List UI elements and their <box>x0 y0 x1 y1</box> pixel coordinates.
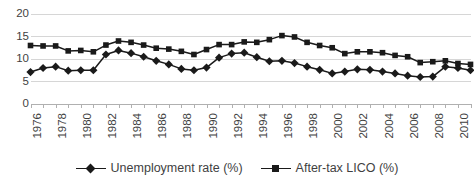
data-point-marker <box>191 52 197 58</box>
data-point-marker <box>152 57 160 65</box>
data-point-marker <box>455 61 461 67</box>
data-point-marker <box>52 63 60 71</box>
data-point-marker <box>304 40 310 46</box>
data-point-marker <box>228 49 236 57</box>
data-point-marker <box>253 53 261 61</box>
data-point-marker <box>240 49 248 57</box>
data-point-marker <box>279 33 285 39</box>
line-chart: 05101520 1976197819801982198419861988199… <box>0 0 474 182</box>
data-point-marker <box>367 49 373 55</box>
data-point-marker <box>229 42 235 48</box>
data-point-marker <box>380 50 386 56</box>
data-point-marker <box>91 49 97 55</box>
data-point-marker <box>216 42 222 48</box>
data-point-marker <box>254 40 260 46</box>
data-point-marker <box>404 72 412 80</box>
plot-area <box>0 0 474 110</box>
x-axis-tick-label: 2002 <box>357 113 369 159</box>
legend-diamond-marker-icon <box>76 162 106 174</box>
data-point-marker <box>141 42 147 48</box>
data-point-marker <box>355 49 361 55</box>
data-point-marker <box>392 53 398 59</box>
data-point-marker <box>165 60 173 68</box>
x-axis-tick-label: 1988 <box>181 113 193 159</box>
data-point-marker <box>366 66 374 74</box>
data-point-marker <box>114 46 122 54</box>
data-point-marker <box>466 66 474 74</box>
data-point-marker <box>341 67 349 75</box>
data-point-marker <box>468 62 474 68</box>
data-point-marker <box>166 46 172 52</box>
y-axis-tick-label: 5 <box>3 76 29 87</box>
x-axis-tick-label: 1994 <box>257 113 269 159</box>
series-lico <box>28 33 474 67</box>
data-point-marker <box>78 48 84 54</box>
x-axis-tick-label: 2010 <box>458 113 470 159</box>
data-point-marker <box>292 34 298 40</box>
data-point-marker <box>53 43 59 49</box>
data-point-marker <box>378 67 386 75</box>
series-line <box>31 50 471 77</box>
y-axis-tick-label: 15 <box>3 31 29 42</box>
x-axis-tick-label: 1996 <box>282 113 294 159</box>
data-point-marker <box>103 42 109 48</box>
x-axis-tick-label: 1990 <box>207 113 219 159</box>
data-point-marker <box>342 51 348 57</box>
legend-square-marker-icon <box>261 162 291 174</box>
data-point-marker <box>65 48 71 54</box>
data-point-marker <box>430 59 436 65</box>
data-point-marker <box>391 69 399 77</box>
legend-label: Unemployment rate (%) <box>111 161 243 175</box>
data-point-marker <box>290 59 298 67</box>
x-axis-tick-label: 2004 <box>383 113 395 159</box>
chart-legend: Unemployment rate (%)After-tax LICO (%) <box>0 157 474 179</box>
data-point-marker <box>153 45 159 51</box>
legend-item[interactable]: After-tax LICO (%) <box>261 161 399 175</box>
x-axis-tick-label: 1978 <box>56 113 68 159</box>
data-point-marker <box>405 54 411 60</box>
legend-label: After-tax LICO (%) <box>296 161 399 175</box>
data-point-marker <box>303 63 311 71</box>
series-line <box>31 36 471 65</box>
x-axis-tick-label: 2000 <box>332 113 344 159</box>
data-point-marker <box>128 40 134 46</box>
y-axis-tick-label: 10 <box>3 53 29 64</box>
data-point-marker <box>177 65 185 73</box>
x-axis-tick-label: 1984 <box>131 113 143 159</box>
x-axis-tick-label: 2008 <box>433 113 445 159</box>
x-axis-tick-label: 1980 <box>81 113 93 159</box>
legend-item[interactable]: Unemployment rate (%) <box>76 161 243 175</box>
data-point-marker <box>416 73 424 81</box>
y-axis: 05101520 <box>0 0 29 110</box>
x-axis-tick-label: 1976 <box>31 113 43 159</box>
data-point-marker <box>443 58 449 64</box>
data-point-marker <box>39 64 47 72</box>
x-axis-tick-label: 2006 <box>408 113 420 159</box>
data-point-marker <box>190 66 198 74</box>
x-axis-tick-label: 1998 <box>307 113 319 159</box>
data-point-marker <box>140 53 148 61</box>
data-point-marker <box>316 66 324 74</box>
data-point-marker <box>40 43 46 49</box>
x-axis-tick-label: 1982 <box>106 113 118 159</box>
x-axis: 1976197819801982198419861988199019921994… <box>0 107 474 153</box>
data-point-marker <box>241 39 247 45</box>
data-point-marker <box>328 69 336 77</box>
data-point-marker <box>127 49 135 57</box>
plot-svg <box>0 0 474 110</box>
data-point-marker <box>267 37 273 43</box>
data-point-marker <box>329 45 335 51</box>
data-point-marker <box>204 47 210 53</box>
data-point-marker <box>64 67 72 75</box>
data-point-marker <box>317 43 323 49</box>
x-axis-tick-label: 1992 <box>232 113 244 159</box>
data-point-marker <box>179 49 185 55</box>
data-point-marker <box>353 65 361 73</box>
y-axis-tick-label: 20 <box>3 8 29 19</box>
data-point-marker <box>265 57 273 65</box>
x-axis-tick-label: 1986 <box>156 113 168 159</box>
data-point-marker <box>77 66 85 74</box>
data-point-marker <box>116 38 122 44</box>
data-point-marker <box>278 57 286 65</box>
data-point-marker <box>417 60 423 66</box>
